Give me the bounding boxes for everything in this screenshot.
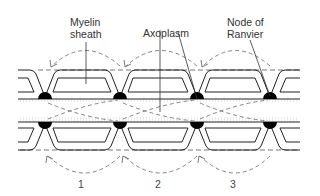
top-current-arcs (52, 51, 270, 67)
node-4-bottom (263, 122, 277, 129)
node-1-bottom (38, 122, 52, 129)
node-pointer (250, 40, 270, 96)
bottom-current-arcs (48, 156, 270, 173)
segment-number-3: 3 (230, 178, 236, 190)
bottom-arrowheads (46, 156, 205, 163)
label-pointers (86, 30, 270, 112)
node-2-bottom (113, 122, 127, 129)
segment-number-1: 1 (78, 178, 84, 190)
segment-number-2: 2 (155, 178, 161, 190)
node-3-bottom (190, 122, 204, 129)
axon-membrane (18, 99, 300, 122)
myelin-sheath-label: Myelin sheath (70, 16, 102, 40)
node-label-line1: Node of (227, 16, 264, 28)
bottom-myelin-sheaths (18, 124, 300, 150)
node-2-top (113, 92, 127, 99)
axoplasm-pointer-2 (178, 32, 197, 99)
top-myelin-sheaths (18, 70, 300, 97)
node-of-ranvier-label: Node of Ranvier (227, 16, 264, 40)
myelin-label-line1: Myelin (70, 16, 102, 28)
axoplasm-stipple (20, 101, 298, 120)
myelin-label-line2: sheath (70, 28, 102, 40)
axoplasm-label: Axoplasm (143, 27, 189, 39)
nodes-of-ranvier (38, 92, 277, 129)
top-arrowheads (50, 60, 208, 67)
node-label-line2: Ranvier (227, 28, 264, 40)
node-1-top (38, 92, 52, 99)
